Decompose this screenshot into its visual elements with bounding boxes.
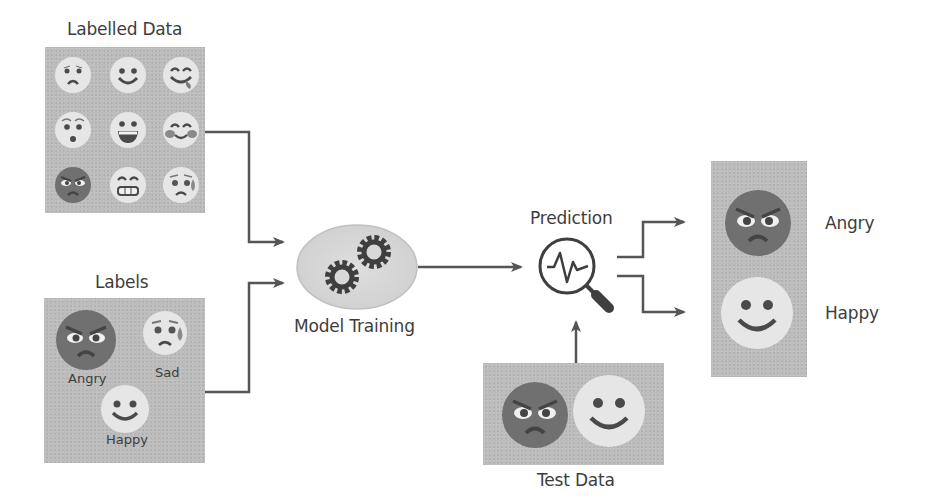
edge-prediction-to-happy <box>617 276 684 312</box>
smiling-face-icon <box>573 375 645 447</box>
output-label-happy: Happy <box>825 303 879 323</box>
test-data-panel <box>483 363 664 465</box>
model-training-title: Model Training <box>294 316 415 336</box>
output-label-angry: Angry <box>825 213 874 233</box>
edge-prediction-to-angry <box>617 222 684 257</box>
model-training-node <box>297 225 417 309</box>
output-panel <box>711 161 807 377</box>
smiling-face-icon <box>721 277 793 349</box>
gear-icon <box>361 239 387 265</box>
gear-icon <box>329 264 355 290</box>
edge-labelled-data-to-model <box>205 132 283 242</box>
magnifier-waveform-icon <box>540 239 609 308</box>
angry-face-icon <box>725 190 791 256</box>
edge-labels-to-model <box>205 283 283 392</box>
angry-face-icon <box>502 382 568 448</box>
test-data-title: Test Data <box>537 470 615 490</box>
prediction-title: Prediction <box>530 208 612 228</box>
